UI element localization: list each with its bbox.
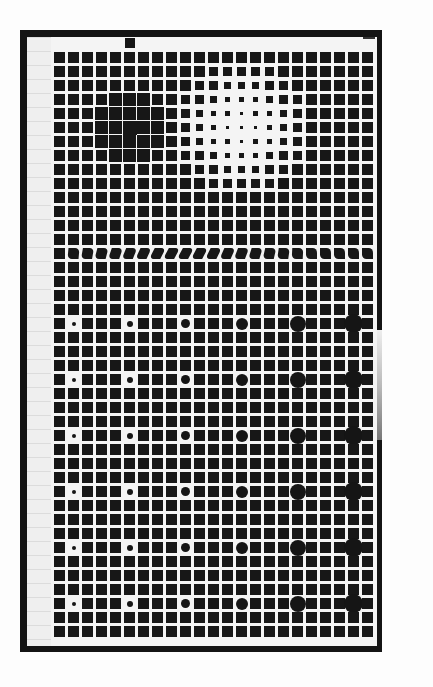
grid-cell <box>68 150 82 164</box>
grid-square <box>54 220 65 231</box>
grid-cell <box>208 80 222 94</box>
grid-cell <box>362 570 376 584</box>
grid-cell <box>222 276 236 290</box>
grid-square <box>334 402 345 413</box>
grid-square <box>208 542 219 553</box>
grid-square <box>54 276 65 287</box>
grid-cell <box>54 472 68 486</box>
grid-cell <box>208 262 222 276</box>
grid-cell <box>362 290 376 304</box>
grid-cell <box>96 192 110 206</box>
grid-square <box>306 416 317 427</box>
dot <box>236 598 248 610</box>
grid-cell <box>264 542 278 556</box>
grid-cell <box>124 444 138 458</box>
grid-cell <box>96 332 110 346</box>
grid-square <box>222 598 233 609</box>
grid-square <box>236 458 247 469</box>
grid-cell <box>208 500 222 514</box>
grid-square <box>250 304 261 315</box>
grid-square <box>138 234 149 245</box>
grid-square <box>320 122 331 133</box>
grid-square <box>236 514 247 525</box>
grid-cell <box>320 206 334 220</box>
grid-square <box>248 248 262 259</box>
grid-cell <box>82 458 96 472</box>
grid-square <box>138 318 149 329</box>
grid-square <box>251 179 260 188</box>
grid-square <box>95 248 109 259</box>
grid-cell <box>208 626 222 640</box>
grid-cell <box>362 220 376 234</box>
grid-square <box>194 262 205 273</box>
grid-cell <box>166 136 180 150</box>
grid-square <box>280 124 287 131</box>
grid-cell <box>236 416 250 430</box>
grid-cell <box>194 584 208 598</box>
grid-square <box>278 612 289 623</box>
grid-square <box>110 332 121 343</box>
grid-cell <box>250 262 264 276</box>
grid-square <box>195 95 203 103</box>
grid-square <box>264 346 275 357</box>
grid-square <box>152 220 163 231</box>
grid-cell <box>110 290 124 304</box>
grid-square <box>137 135 150 148</box>
grid-cell <box>110 304 124 318</box>
grid-square <box>166 178 177 189</box>
grid-cell <box>236 570 250 584</box>
grid-square <box>208 318 219 329</box>
grid-square <box>181 137 190 146</box>
grid-square <box>166 150 177 161</box>
grid-square <box>334 626 345 637</box>
dot <box>181 487 190 496</box>
grid-cell <box>152 458 166 472</box>
grid-square <box>68 360 79 371</box>
grid-square <box>123 107 136 120</box>
grid-cell <box>348 192 362 206</box>
grid-square <box>278 570 289 581</box>
grid-cell <box>54 584 68 598</box>
grid-square <box>152 570 163 581</box>
grid-cell <box>278 332 292 346</box>
grid-square <box>222 514 233 525</box>
grid-cell <box>278 528 292 542</box>
grid-cell <box>82 430 96 444</box>
grid-cell <box>180 612 194 626</box>
grid-cell <box>110 206 124 220</box>
grid-square <box>278 542 289 553</box>
grid-cell <box>96 164 110 178</box>
grid-cell <box>348 276 362 290</box>
grid-square <box>348 206 359 217</box>
grid-square <box>138 220 149 231</box>
grid-square <box>208 276 219 287</box>
dot <box>127 377 133 383</box>
grid-square <box>166 514 177 525</box>
grid-square <box>82 80 93 91</box>
grid-cell <box>362 234 376 248</box>
grid-cell <box>334 108 348 122</box>
grid-square <box>96 458 107 469</box>
grid-square <box>293 151 303 161</box>
grid-cell <box>96 206 110 220</box>
grid-square <box>166 472 177 483</box>
grid-cell <box>124 178 138 192</box>
grid-square <box>362 178 373 189</box>
grid-square <box>166 290 177 301</box>
grid-square <box>96 220 107 231</box>
grid-square <box>362 598 373 609</box>
grid-square <box>320 598 331 609</box>
grid-square <box>362 290 373 301</box>
grid-square <box>222 402 233 413</box>
grid-cell <box>278 584 292 598</box>
grid-square <box>54 346 65 357</box>
grid-cell <box>54 290 68 304</box>
grid-cell <box>194 556 208 570</box>
grid-cell <box>208 584 222 598</box>
grid-cell <box>54 556 68 570</box>
grid-cell <box>96 416 110 430</box>
dot <box>344 370 363 389</box>
grid-square <box>250 542 261 553</box>
grid-cell <box>236 346 250 360</box>
grid-cell <box>110 458 124 472</box>
